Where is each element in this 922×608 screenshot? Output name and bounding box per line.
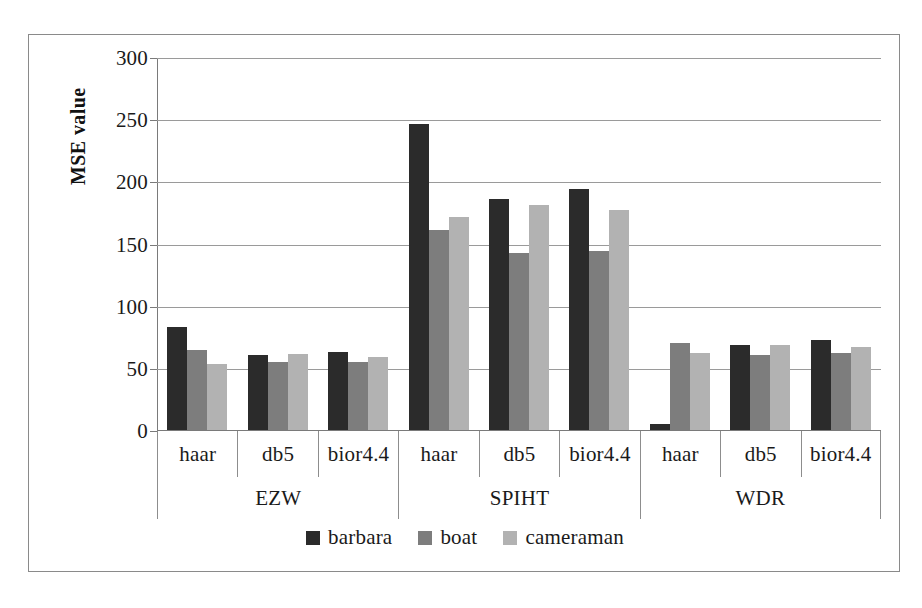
- y-tick-label: 0: [137, 419, 148, 444]
- bar-barbara-7: [730, 345, 750, 430]
- category-axis: haardb5bior4.4haardb5bior4.4haardb5bior4…: [157, 431, 881, 519]
- y-tick-mark: [150, 120, 157, 121]
- x-group-label-wdr: WDR: [640, 477, 881, 519]
- bar-cameraman-6: [690, 353, 710, 430]
- legend-item-boat: boat: [418, 525, 477, 550]
- bar-boat-6: [670, 343, 690, 430]
- bar-cameraman-0: [207, 364, 227, 430]
- y-axis-title: MSE value: [67, 88, 90, 186]
- y-tick-label: 150: [116, 232, 148, 257]
- x-tick-label-spiht-db5: db5: [479, 431, 559, 477]
- legend-label: barbara: [328, 525, 392, 550]
- x-tick-label-ezw-bior4.4: bior4.4: [318, 431, 398, 477]
- bar-barbara-5: [569, 189, 589, 430]
- legend-swatch-icon: [503, 531, 517, 545]
- y-tick-label: 250: [116, 108, 148, 133]
- x-tick-label-spiht-haar: haar: [398, 431, 478, 477]
- legend-item-barbara: barbara: [306, 525, 392, 550]
- bar-cameraman-3: [449, 217, 469, 430]
- legend-swatch-icon: [418, 531, 432, 545]
- bar-boat-3: [429, 230, 449, 430]
- bar-boat-0: [187, 350, 207, 430]
- legend-label: boat: [440, 525, 477, 550]
- x-tick-label-wdr-bior4.4: bior4.4: [801, 431, 881, 477]
- bar-cameraman-7: [770, 345, 790, 430]
- bar-boat-4: [509, 253, 529, 430]
- bar-chart: MSE value 050100150200250300 haardb5bior…: [29, 35, 901, 573]
- bar-cameraman-8: [851, 347, 871, 430]
- figure-frame: MSE value 050100150200250300 haardb5bior…: [28, 34, 900, 572]
- x-tick-label-wdr-db5: db5: [720, 431, 800, 477]
- bar-cameraman-4: [529, 205, 549, 430]
- bars-layer: [157, 58, 881, 431]
- y-tick-mark: [150, 58, 157, 59]
- bar-cameraman-5: [609, 210, 629, 430]
- bar-barbara-1: [248, 355, 268, 430]
- legend-item-cameraman: cameraman: [503, 525, 624, 550]
- x-tick-label-ezw-db5: db5: [237, 431, 317, 477]
- bar-boat-5: [589, 251, 609, 430]
- wavelet-label-row: haardb5bior4.4haardb5bior4.4haardb5bior4…: [157, 431, 881, 477]
- bar-barbara-3: [409, 124, 429, 430]
- y-tick-mark: [150, 307, 157, 308]
- bar-barbara-2: [328, 352, 348, 430]
- bar-barbara-4: [489, 199, 509, 430]
- y-tick-label: 100: [116, 294, 148, 319]
- chart-legend: barbaraboatcameraman: [29, 525, 901, 550]
- y-tick-label: 300: [116, 46, 148, 71]
- y-tick-label: 50: [127, 356, 148, 381]
- y-tick-mark: [150, 431, 157, 432]
- coder-label-row: EZWSPIHTWDR: [157, 477, 881, 519]
- bar-cameraman-1: [288, 354, 308, 430]
- bar-cameraman-2: [368, 357, 388, 430]
- legend-swatch-icon: [306, 531, 320, 545]
- x-tick-label-ezw-haar: haar: [157, 431, 237, 477]
- bar-boat-8: [831, 353, 851, 430]
- x-tick-label-spiht-bior4.4: bior4.4: [559, 431, 639, 477]
- bar-barbara-8: [811, 340, 831, 430]
- bar-boat-1: [268, 362, 288, 430]
- x-tick-label-wdr-haar: haar: [640, 431, 720, 477]
- y-tick-label: 200: [116, 170, 148, 195]
- y-tick-mark: [150, 369, 157, 370]
- plot-area: 050100150200250300: [157, 58, 881, 431]
- y-tick-mark: [150, 182, 157, 183]
- y-tick-mark: [150, 245, 157, 246]
- bar-boat-7: [750, 355, 770, 430]
- bar-boat-2: [348, 362, 368, 430]
- legend-label: cameraman: [525, 525, 624, 550]
- bar-barbara-6: [650, 424, 670, 430]
- x-group-label-spiht: SPIHT: [398, 477, 639, 519]
- bar-barbara-0: [167, 327, 187, 430]
- x-group-label-ezw: EZW: [157, 477, 398, 519]
